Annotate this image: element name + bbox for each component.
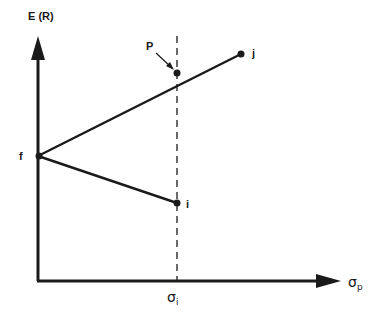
svg-text:σ: σ (167, 289, 176, 305)
line-f-to-j (38, 54, 241, 156)
y-axis-arrow-icon (31, 36, 45, 60)
x-axis-arrow-icon (316, 274, 341, 288)
line-f-to-i (38, 156, 177, 203)
svg-text:i: i (176, 297, 179, 307)
point-p (174, 70, 181, 77)
x-axis (37, 274, 341, 288)
point-j-label: j (251, 47, 255, 59)
point-i (174, 200, 181, 207)
y-axis-label: E (R) (28, 10, 54, 22)
point-f (36, 153, 43, 160)
x-axis-label-sigma-p: σ p (348, 274, 363, 292)
point-f-label: f (19, 150, 23, 162)
svg-text:p: p (357, 282, 363, 292)
point-j (238, 51, 245, 58)
point-p-label: P (146, 40, 153, 52)
p-pointer-arrow-icon (156, 53, 174, 70)
diagram-canvas: E (R) f P j i σ i σ p (0, 0, 382, 316)
x-tick-label-sigma-i: σ i (167, 289, 179, 307)
point-i-label: i (186, 198, 189, 210)
svg-text:σ: σ (348, 274, 357, 290)
